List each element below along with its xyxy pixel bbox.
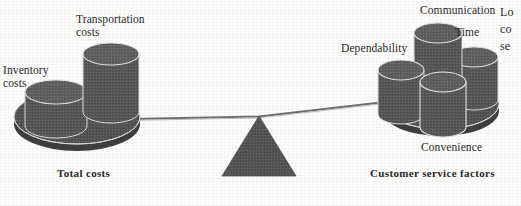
clipped-line-2: co: [500, 22, 512, 36]
label-communication: Communication: [420, 4, 495, 17]
label-dependability: Dependability: [341, 42, 407, 55]
figure-canvas: Inventory costs Transportation costs Tot…: [0, 0, 521, 206]
label-customer-service-factors: Customer service factors: [370, 167, 495, 179]
cylinder-transportation-costs: [83, 43, 139, 123]
label-inventory-costs: Inventory costs: [3, 64, 49, 90]
fulcrum-triangle: [222, 116, 296, 176]
right-pan-group: [378, 23, 499, 137]
left-pan-group: [14, 43, 140, 151]
label-total-costs: Total costs: [57, 167, 110, 179]
clipped-line-3: se: [500, 39, 510, 53]
cylinder-convenience: [420, 72, 466, 137]
clipped-line-1: Lo: [500, 5, 514, 19]
balance-beam: [132, 101, 398, 121]
label-convenience: Convenience: [421, 141, 482, 154]
clipped-edge-text: Locose: [500, 4, 514, 55]
label-transportation-costs: Transportation costs: [76, 13, 145, 39]
cylinder-dependability: [378, 60, 424, 124]
label-time: Time: [455, 26, 479, 39]
